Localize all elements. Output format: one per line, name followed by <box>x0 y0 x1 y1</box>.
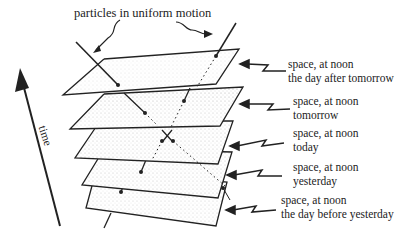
slice-label-line2: the day after tomorrow <box>288 71 394 85</box>
slice-label-line1: space, at noon <box>288 57 394 71</box>
slice-label-line1: space, at noon <box>293 160 358 174</box>
slice-label-line1: space, at noon <box>293 126 358 140</box>
slice-label-today: space, at noon today <box>293 126 358 154</box>
slice-label-line2: yesterday <box>293 174 358 188</box>
slice-label-line1: space, at noon <box>281 193 394 207</box>
slice-tomorrow <box>70 87 243 129</box>
slice-label-day-after-tomorrow: space, at noon the day after tomorrow <box>288 57 394 85</box>
label-pointer-arrows <box>93 20 213 53</box>
particle-dot <box>119 190 123 194</box>
slice-label-line2: the day before yesterday <box>281 207 394 221</box>
particles-label: particles in uniform motion <box>74 6 211 20</box>
particle-worldline-left-segment <box>104 213 111 228</box>
slice-label-day-before-yesterday: space, at noon the day before yesterday <box>281 193 394 221</box>
time-arrow <box>15 68 60 226</box>
slice-label-tomorrow: space, at noon tomorrow <box>293 94 358 122</box>
particle-dot <box>116 83 120 87</box>
slice-pointer-arrows <box>226 60 290 214</box>
slice-label-line2: tomorrow <box>293 108 358 122</box>
slice-label-line1: space, at noon <box>293 94 358 108</box>
slice-label-line2: today <box>293 140 358 154</box>
slice-label-yesterday: space, at noon yesterday <box>293 160 358 188</box>
particle-dot <box>139 170 143 174</box>
